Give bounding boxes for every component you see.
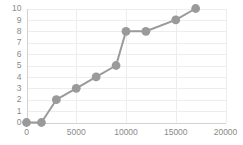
gridlines (27, 9, 227, 124)
chart-canvas: 01234567891005000100001500020000 (0, 0, 243, 145)
y-tick-label: 0 (17, 117, 22, 127)
y-axis-tick-labels: 012345678910 (12, 3, 22, 127)
y-tick-label: 2 (17, 94, 22, 104)
y-tick-label: 10 (12, 3, 22, 13)
y-tick-label: 3 (17, 83, 22, 93)
y-tick-label: 8 (17, 26, 22, 36)
x-tick-label: 10000 (114, 127, 138, 137)
x-tick-label: 5000 (67, 127, 86, 137)
data-point (191, 4, 200, 13)
data-point (52, 95, 61, 104)
y-tick-label: 1 (17, 106, 22, 116)
data-point (142, 27, 151, 36)
line-chart: 01234567891005000100001500020000 (0, 0, 243, 145)
x-axis-tick-labels: 05000100001500020000 (24, 127, 237, 137)
data-point (37, 118, 46, 127)
data-point (122, 27, 131, 36)
data-point-markers (22, 4, 200, 127)
y-tick-label: 9 (17, 15, 22, 25)
y-tick-label: 4 (17, 72, 22, 82)
data-point (72, 84, 81, 93)
data-point (112, 61, 121, 70)
y-tick-label: 6 (17, 49, 22, 59)
data-point (171, 16, 180, 25)
x-tick-label: 15000 (164, 127, 188, 137)
x-tick-label: 0 (24, 127, 29, 137)
y-tick-label: 5 (17, 60, 22, 70)
data-point (22, 118, 31, 127)
y-tick-label: 7 (17, 37, 22, 47)
series-group (22, 4, 200, 127)
series-line (27, 9, 196, 123)
data-point (92, 73, 101, 82)
x-tick-label: 20000 (214, 127, 238, 137)
